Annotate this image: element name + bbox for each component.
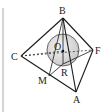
label-R: R (61, 67, 68, 78)
center-point-O (62, 50, 65, 53)
edge-FA (76, 50, 93, 92)
label-O: O (54, 41, 61, 52)
label-A: A (73, 94, 81, 105)
label-F: F (95, 45, 101, 56)
label-M: M (38, 75, 47, 86)
geometry-diagram: B C F A M O R (0, 0, 112, 112)
label-B: B (59, 5, 66, 16)
label-C: C (11, 51, 18, 62)
